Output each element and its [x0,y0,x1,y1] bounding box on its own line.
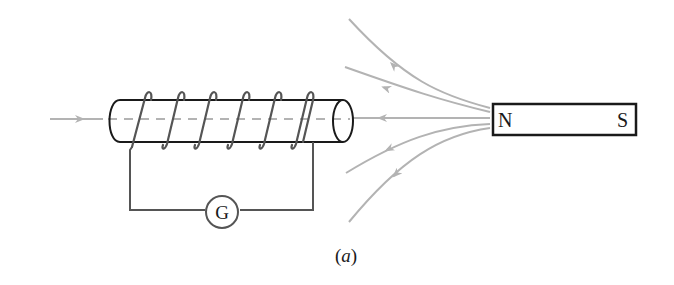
field-line-1 [349,19,490,108]
magnet-south-label: S [617,109,628,131]
field-line-4 [346,124,490,173]
galvanometer: G [206,196,238,228]
magnet-north-label: N [498,109,512,131]
induction-diagram: G N S (a) [0,0,674,285]
wire-left [130,147,205,210]
coil-cylinder [110,100,354,142]
field-line-arrow-1 [392,64,394,66]
wire-right [240,142,313,210]
bar-magnet: N S [493,104,636,135]
cylinder-end-ellipse [333,100,353,142]
field-lines [345,19,490,222]
field-line-arrow-4 [387,149,389,150]
field-line-arrow-5 [394,174,396,176]
figure-caption: (a) [335,245,357,267]
caption-letter: a [341,245,351,266]
caption-close-paren: ) [351,245,357,267]
field-line-arrow-2 [384,88,386,89]
field-line-2 [345,67,490,112]
magnet-body [493,104,636,135]
galvanometer-label: G [215,202,229,223]
field-line-5 [349,128,490,222]
